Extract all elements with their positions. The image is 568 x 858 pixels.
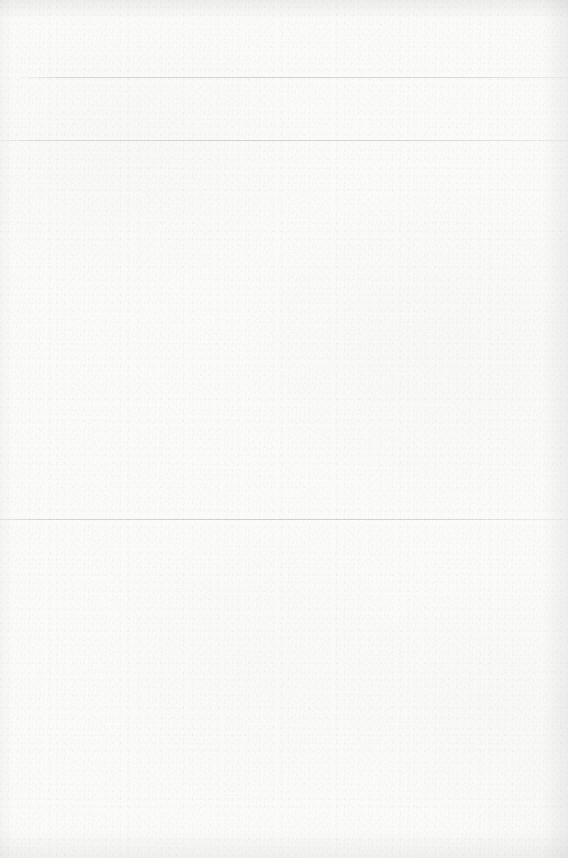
page-vignette [0,0,568,858]
page-edge-shadow-right [542,0,568,858]
ruled-line-1 [0,77,568,78]
paper-grain-texture [0,0,568,858]
ruled-line-3 [0,519,568,520]
paper-mottling [0,0,568,858]
ruled-line-2 [0,140,568,141]
scanned-page [0,0,568,858]
page-edge-shadow-top [0,0,568,20]
page-edge-shadow-left [0,0,14,858]
page-edge-shadow-bottom [0,830,568,858]
